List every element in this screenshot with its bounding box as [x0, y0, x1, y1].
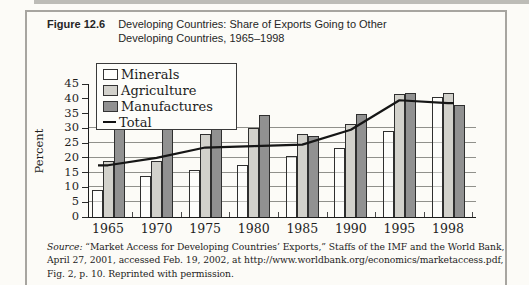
y-tick-label: 35 — [51, 106, 79, 120]
y-tick-label: 0 — [51, 209, 79, 223]
y-tick-mark — [82, 113, 88, 114]
bar-swatch-icon — [103, 69, 118, 80]
legend-item-total: Total — [103, 114, 236, 130]
x-axis-label: 1970 — [135, 221, 179, 236]
source-line3: Fig. 2, p. 10. Reprinted with permission… — [47, 267, 504, 280]
y-tick-label: 15 — [51, 165, 79, 179]
figure-title-line1: Developing Countries: Share of Exports G… — [118, 17, 386, 31]
y-tick-label: 30 — [51, 120, 79, 134]
source-line2: April 27, 2001, accessed Feb. 19, 2002, … — [47, 253, 504, 266]
y-tick-label: 25 — [51, 135, 79, 149]
y-tick-mark — [82, 98, 88, 99]
page-scan-edge — [34, 0, 529, 4]
y-tick-mark — [82, 143, 88, 144]
y-tick-mark — [82, 187, 88, 188]
y-tick-mark — [82, 128, 88, 129]
x-axis-label: 1995 — [377, 221, 421, 236]
x-axis-label: 1990 — [329, 221, 373, 236]
y-tick-label: 10 — [51, 179, 79, 193]
y-tick-label: 40 — [51, 91, 79, 105]
source-label: Source: — [47, 241, 82, 252]
y-axis-title-text: Percent — [32, 128, 46, 173]
y-tick-mark — [82, 84, 88, 85]
y-tick-label: 20 — [51, 150, 79, 164]
plot-area: MineralsAgricultureManufacturesTotal 051… — [88, 84, 476, 218]
y-tick-label: 5 — [51, 194, 79, 208]
figure-number-label: Figure 12.6 — [47, 17, 105, 31]
legend-item-minerals: Minerals — [103, 66, 236, 82]
legend-label: Total — [119, 115, 152, 130]
legend-label: Manufactures — [121, 99, 213, 114]
x-axis-label: 1985 — [280, 221, 324, 236]
y-tick-mark — [82, 172, 88, 173]
bar-swatch-icon — [103, 85, 118, 96]
figure-title-row: Figure 12.6 Developing Countries: Share … — [47, 17, 387, 45]
source-line1: Source: “Market Access for Developing Co… — [47, 240, 504, 253]
line-swatch-icon — [103, 121, 116, 123]
legend-item-manufactures: Manufactures — [103, 98, 236, 114]
x-axis-label: 1975 — [183, 221, 227, 236]
legend-label: Minerals — [121, 67, 179, 82]
y-axis-title: Percent — [31, 84, 47, 217]
bar-swatch-icon — [103, 101, 118, 112]
chart-legend: MineralsAgricultureManufacturesTotal — [96, 63, 237, 130]
legend-item-agriculture: Agriculture — [103, 82, 236, 98]
x-axis-label: 1965 — [86, 221, 130, 236]
legend-label: Agriculture — [121, 83, 196, 98]
source-citation: Source: “Market Access for Developing Co… — [47, 240, 504, 280]
y-tick-mark — [82, 157, 88, 158]
y-tick-mark — [82, 202, 88, 203]
y-tick-label: 45 — [51, 76, 79, 90]
y-tick-mark — [82, 217, 88, 218]
figure-title: Developing Countries: Share of Exports G… — [118, 17, 386, 45]
source-line1-text: “Market Access for Developing Countries’… — [82, 241, 504, 252]
figure-title-line2: Developing Countries, 1965–1998 — [118, 31, 386, 45]
x-axis-label: 1998 — [426, 221, 470, 236]
x-axis-label: 1980 — [232, 221, 276, 236]
